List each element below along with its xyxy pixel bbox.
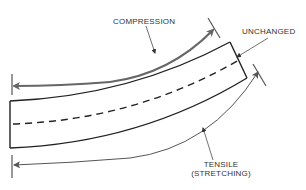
tensile-arrow-right [130,72,258,158]
compression-leader [146,26,155,53]
beam [10,42,247,148]
neutral-axis-dashed [13,60,239,124]
tensile-label-line1: TENSILE [181,160,261,169]
beam-top-edge [10,42,230,101]
tensile-label: TENSILE (STRETCHING) [181,160,261,178]
unchanged-label: UNCHANGED [242,27,295,36]
compression-right-tick [208,18,220,38]
compression-arrow-right [110,30,213,82]
tensile-right-tick [253,64,266,86]
tensile-leader [203,128,213,160]
compression-arrow-left [14,82,110,86]
unchanged-leader [237,38,268,57]
tensile-label-line2: (STRETCHING) [181,169,261,178]
beam-bottom-edge [10,78,247,148]
compression-indicator [12,18,220,95]
tensile-arrow-left [14,158,130,165]
compression-label: COMPRESSION [113,17,175,26]
beam-right-end [230,42,247,78]
